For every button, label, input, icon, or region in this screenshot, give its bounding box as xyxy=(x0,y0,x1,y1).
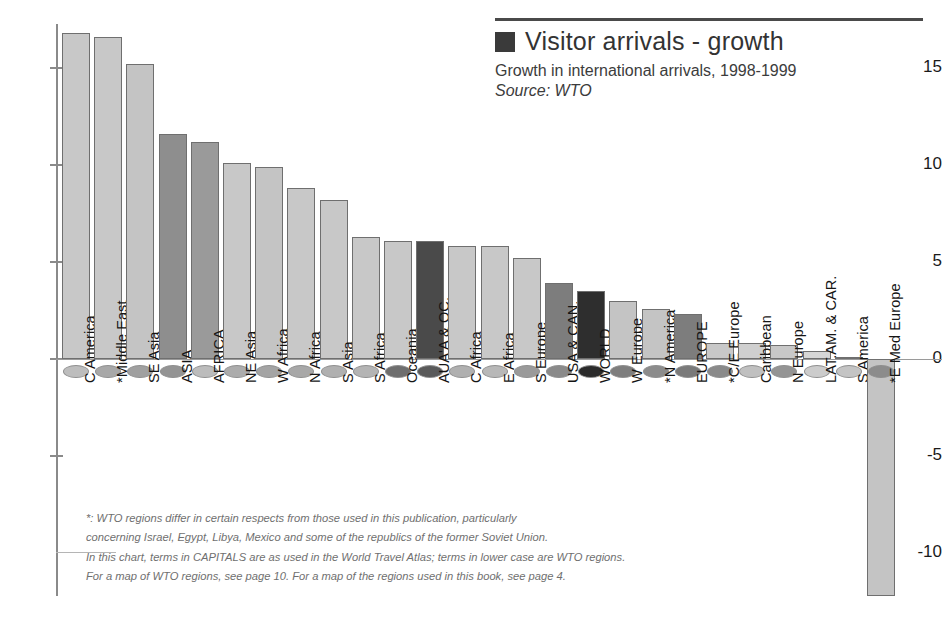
footnote-line-1: *: WTO regions differ in certain respect… xyxy=(86,509,746,528)
bar[interactable] xyxy=(320,200,348,359)
bar[interactable] xyxy=(867,359,895,596)
category-label: *E Med Europe xyxy=(887,283,903,383)
bar[interactable] xyxy=(223,163,251,359)
footnote: *: WTO regions differ in certain respect… xyxy=(86,509,746,586)
bar[interactable] xyxy=(191,142,219,359)
footnote-line-2: concerning Israel, Egypt, Libya, Mexico … xyxy=(86,528,746,547)
bar[interactable] xyxy=(126,64,154,359)
bar-column[interactable]: N Europe xyxy=(770,0,798,617)
bar-column[interactable]: S America xyxy=(835,0,863,617)
bar[interactable] xyxy=(62,33,90,359)
bar-column[interactable]: *E Med Europe xyxy=(867,0,895,617)
footnote-line-4: For a map of WTO regions, see page 10. F… xyxy=(86,567,746,586)
bar-column[interactable]: LAT.AM. & CAR. xyxy=(803,0,831,617)
bar[interactable] xyxy=(159,134,187,359)
footnote-line-3: In this chart, terms in CAPITALS are as … xyxy=(86,548,746,567)
chart-root: Visitor arrivals - growth Growth in inte… xyxy=(0,0,942,617)
